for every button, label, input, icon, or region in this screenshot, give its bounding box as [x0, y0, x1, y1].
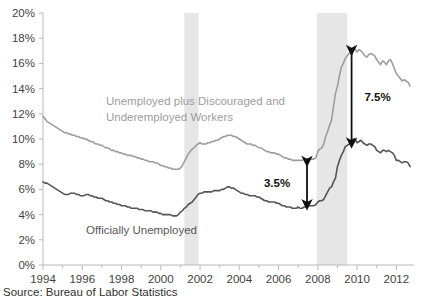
x-axis-tick-label: 2006 — [266, 273, 292, 285]
y-axis-tick-label: 10% — [12, 133, 35, 145]
x-axis-tick-label: 2002 — [187, 273, 213, 285]
x-axis-tick-label: 1996 — [69, 273, 95, 285]
y-axis-tick-label: 20% — [12, 7, 35, 19]
y-axis-tick-label: 4% — [18, 209, 35, 221]
series-line-u6 — [43, 48, 410, 169]
x-axis-tick-label: 2004 — [226, 273, 252, 285]
series-label-u6-line1: Unemployed plus Discouraged and — [106, 95, 285, 107]
x-axis-tick-label: 1998 — [109, 273, 135, 285]
y-axis-tick-label: 8% — [18, 158, 35, 170]
series-line-u3 — [43, 139, 410, 216]
x-axis-tick-label: 2008 — [305, 273, 331, 285]
x-axis-tick-label: 2010 — [344, 273, 370, 285]
y-axis-tick-label: 18% — [12, 32, 35, 44]
y-axis-tick-label: 14% — [12, 83, 35, 95]
series-label-u3: Officially Unemployed — [86, 224, 197, 236]
source-note: Source: Bureau of Labor Statistics — [3, 286, 178, 298]
y-axis-tick-label: 16% — [12, 57, 35, 69]
chart-figure: 0%2%4%6%8%10%12%14%16%18%20%199419961998… — [0, 0, 424, 305]
x-axis-tick-label: 2012 — [384, 273, 410, 285]
x-axis-tick-label: 2000 — [148, 273, 174, 285]
y-axis-tick-label: 2% — [18, 234, 35, 246]
gap-label-2009: 7.5% — [364, 91, 390, 103]
gap-label-2007: 3.5% — [264, 177, 290, 189]
series-label-u6-line2: Underemployed Workers — [106, 111, 233, 123]
y-axis-tick-label: 6% — [18, 183, 35, 195]
x-axis-tick-label: 1994 — [30, 273, 56, 285]
unemployment-line-chart: 0%2%4%6%8%10%12%14%16%18%20%199419961998… — [0, 0, 424, 305]
recession-2008 — [317, 13, 347, 265]
y-axis-tick-label: 0% — [18, 259, 35, 271]
y-axis-tick-label: 12% — [12, 108, 35, 120]
